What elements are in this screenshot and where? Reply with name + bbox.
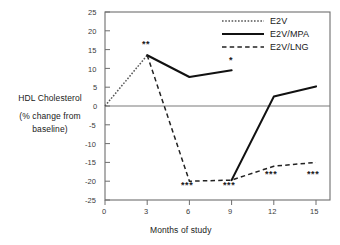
legend-label-e2v: E2V — [270, 16, 287, 26]
x-tick-label-9: 9 — [228, 207, 232, 216]
y-tick-label-10: 10 — [88, 65, 96, 74]
y-tick-label-5: 5 — [93, 83, 97, 92]
sig-marker-m12-bottom: *** — [265, 170, 277, 179]
sig-marker-m6-bottom: *** — [181, 181, 193, 190]
legend-label-e2v-lng: E2V/LNG — [270, 42, 309, 52]
y-axis-title-line1: HDL Cholesterol — [2, 92, 98, 105]
x-tick-label-0: 0 — [102, 207, 106, 216]
sig-marker-m9-top: * — [229, 56, 233, 65]
y-tick-label-neg15: -15 — [85, 158, 96, 167]
legend-swatches — [222, 21, 264, 47]
sig-marker-m15-bottom: *** — [307, 170, 319, 179]
y-axis-title-line3: baseline) — [2, 123, 98, 136]
legend-label-e2v-mpa: E2V/MPA — [270, 29, 309, 39]
sig-marker-m9-bottom: *** — [223, 181, 235, 190]
series-e2v-line — [105, 55, 147, 106]
y-tick-label-20: 20 — [88, 27, 96, 36]
x-tick-label-12: 12 — [268, 207, 276, 216]
x-axis-title: Months of study — [150, 225, 212, 235]
x-tick-label-6: 6 — [186, 207, 190, 216]
y-tick-label-neg20: -20 — [85, 177, 96, 186]
y-tick-label-neg25: -25 — [85, 196, 96, 205]
y-tick-label-neg10: -10 — [85, 140, 96, 149]
x-tick-label-3: 3 — [144, 207, 148, 216]
series-e2v-mpa-line-upper — [147, 55, 231, 77]
y-axis-title: HDL Cholesterol (% change from baseline) — [2, 92, 98, 136]
series-e2v-lng-line — [147, 55, 316, 181]
x-axis-ticks — [105, 200, 316, 205]
sig-marker-m3: ** — [142, 40, 150, 49]
y-tick-label-25: 25 — [88, 8, 96, 17]
y-tick-label-15: 15 — [88, 46, 96, 55]
y-axis-title-line2: (% change from — [2, 110, 98, 123]
x-tick-label-15: 15 — [310, 207, 318, 216]
